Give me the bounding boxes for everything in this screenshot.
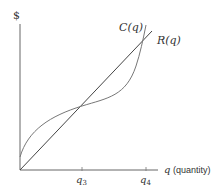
revenue-curve-label: R(q) [156,34,181,47]
tick-q3-label: q3 [76,174,87,187]
cost-revenue-chart: $ C(q) R(q) q3 q4 q (quantity) [0,0,219,195]
cost-curve-label: C(q) [119,21,143,34]
revenue-line [20,31,152,170]
x-axis-label: q (quantity) [164,164,210,175]
tick-q4-label: q4 [140,174,151,187]
cost-curve [20,25,146,157]
y-axis-label: $ [13,9,20,22]
